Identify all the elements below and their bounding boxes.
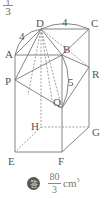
answer-badge-icon: 答 — [27, 177, 40, 190]
edge-QR — [62, 67, 89, 108]
prism-diagram: D C A B R P Q H G E F 4 4 5 — [0, 0, 108, 170]
edge-PB — [15, 55, 62, 80]
answer-unit: cm3 — [63, 177, 79, 189]
label-Q: Q — [53, 96, 61, 108]
edge-FG — [62, 127, 89, 152]
label-E: E — [8, 155, 15, 167]
hidden-line-D — [28, 29, 41, 95]
label-DC-length: 4 — [62, 16, 68, 28]
label-R: R — [92, 68, 100, 80]
label-F: F — [58, 155, 64, 167]
unit-exponent: 3 — [76, 177, 79, 183]
answer-fraction: 80 3 — [48, 172, 61, 195]
label-D: D — [36, 17, 44, 29]
answer-denominator: 3 — [52, 185, 57, 195]
label-AD-length: 4 — [19, 30, 25, 42]
label-H: H — [31, 120, 39, 132]
answer-row: 答 80 3 cm3 — [27, 171, 79, 195]
label-P: P — [5, 75, 11, 87]
label-C: C — [91, 17, 98, 29]
unit-text: cm — [63, 177, 76, 189]
label-B: B — [63, 43, 70, 55]
answer-numerator: 80 — [50, 172, 60, 182]
label-G: G — [92, 126, 100, 138]
label-BQ-length: 5 — [68, 76, 74, 88]
label-A: A — [5, 48, 13, 60]
